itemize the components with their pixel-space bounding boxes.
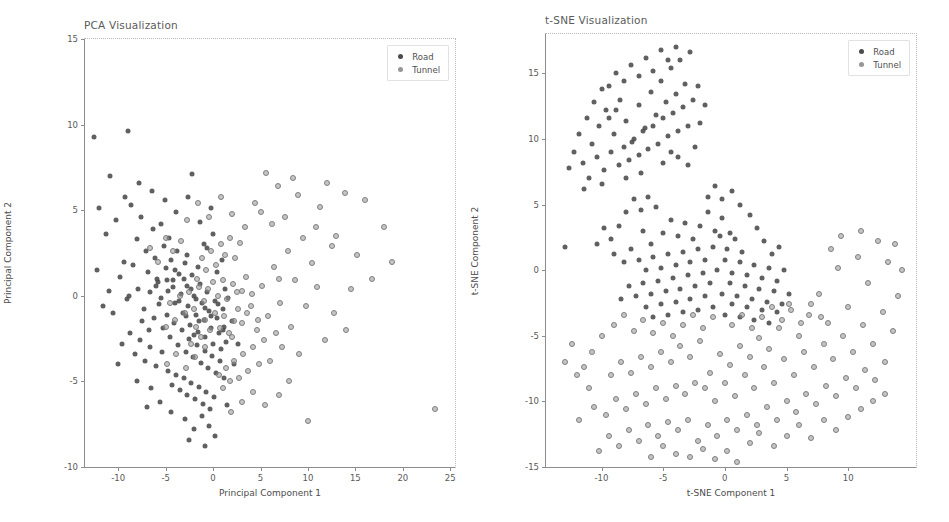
tsne-point-tunnel [677, 343, 683, 349]
tsne-point-tunnel [638, 354, 644, 360]
pca-point-road [181, 375, 186, 380]
tsne-point-tunnel [645, 422, 651, 428]
tsne-point-road [764, 299, 769, 304]
pca-point-road [158, 221, 163, 226]
pca-point-road [183, 350, 188, 355]
pca-yticklabel: 15 [67, 34, 78, 44]
tsne-point-tunnel [712, 456, 718, 462]
tsne-point-road [698, 223, 703, 228]
pca-point-road [103, 232, 108, 237]
tsne-point-road [648, 291, 653, 296]
tsne-point-road [621, 144, 626, 149]
pca-point-tunnel [228, 409, 234, 415]
pca-xtick [355, 467, 356, 471]
pca-point-road [200, 401, 205, 406]
tsne-point-tunnel [618, 359, 624, 365]
pca-point-road [164, 278, 169, 283]
pca-point-tunnel [256, 361, 262, 367]
tsne-point-road [757, 286, 762, 291]
tsne-point-tunnel [606, 433, 612, 439]
pca-point-tunnel [389, 259, 395, 265]
tsne-point-tunnel [724, 448, 730, 454]
tsne-point-tunnel [665, 419, 671, 425]
pca-point-tunnel [210, 279, 216, 285]
pca-point-tunnel [213, 262, 219, 268]
tsne-point-road [621, 260, 626, 265]
tsne-yticklabel: -15 [525, 462, 539, 472]
tsne-point-tunnel [722, 380, 728, 386]
tsne-point-road [712, 228, 717, 233]
pca-ytick [81, 381, 85, 382]
pca-point-tunnel [198, 334, 204, 340]
tsne-point-tunnel [865, 280, 871, 286]
tsne-point-road [616, 163, 621, 168]
tsne-point-tunnel [796, 333, 802, 339]
pca-point-road [212, 394, 217, 399]
tsne-point-tunnel [803, 391, 809, 397]
tsne-point-tunnel [668, 359, 674, 365]
tsne-point-road [779, 302, 784, 307]
tsne-point-road [772, 289, 777, 294]
tsne-point-tunnel [862, 367, 868, 373]
legend-marker-tunnel [398, 67, 403, 72]
tsne-point-road [626, 283, 631, 288]
tsne-point-road [715, 268, 720, 273]
pca-point-road [196, 384, 201, 389]
tsne-point-tunnel [712, 398, 718, 404]
pca-point-tunnel [205, 286, 211, 292]
tsne-point-road [690, 97, 695, 102]
pca-point-road [186, 304, 191, 309]
tsne-point-road [683, 220, 688, 225]
pca-point-tunnel [184, 217, 190, 223]
tsne-point-road [675, 234, 680, 239]
pca-point-road [129, 203, 134, 208]
pca-point-road [133, 352, 138, 357]
legend-marker-tunnel [859, 62, 864, 67]
tsne-point-road [581, 160, 586, 165]
tsne-point-tunnel [631, 328, 637, 334]
tsne-point-tunnel [732, 393, 738, 399]
tsne-point-road [661, 231, 666, 236]
tsne-point-road [624, 118, 629, 123]
tsne-point-road [668, 150, 673, 155]
pca-plot-area: Principal Component 1 Principal Componen… [84, 38, 456, 468]
pca-point-road [91, 134, 96, 139]
tsne-point-tunnel [697, 338, 703, 344]
pca-yticklabel: 10 [67, 120, 78, 130]
tsne-ylabel: t-SNE Component 2 [471, 206, 481, 295]
tsne-point-road [619, 297, 624, 302]
tsne-point-road [673, 262, 678, 267]
tsne-point-tunnel [830, 356, 836, 362]
tsne-point-tunnel [744, 412, 750, 418]
tsne-point-road [782, 268, 787, 273]
legend-label-tunnel: Tunnel [873, 60, 901, 70]
pca-point-tunnel [195, 200, 201, 206]
pca-point-tunnel [172, 317, 178, 323]
pca-point-tunnel [333, 233, 339, 239]
tsne-point-tunnel [692, 380, 698, 386]
tsne-ytick [542, 270, 546, 271]
tsne-point-road [624, 176, 629, 181]
tsne-point-road [690, 236, 695, 241]
tsne-ytick [542, 73, 546, 74]
tsne-point-road [601, 226, 606, 231]
pca-point-tunnel [220, 385, 226, 391]
tsne-point-tunnel [734, 427, 740, 433]
tsne-xtick [787, 467, 788, 471]
pca-point-road [177, 387, 182, 392]
tsne-point-road [725, 247, 730, 252]
tsne-point-road [611, 252, 616, 257]
tsne-point-road [742, 283, 747, 288]
pca-point-road [141, 307, 146, 312]
pca-point-tunnel [331, 310, 337, 316]
tsne-point-tunnel [751, 385, 757, 391]
tsne-point-road [648, 241, 653, 246]
tsne-yticklabel: -10 [525, 396, 539, 406]
pca-point-road [147, 290, 152, 295]
pca-yticklabel: 5 [73, 205, 78, 215]
pca-point-tunnel [265, 313, 271, 319]
pca-yticklabel: -10 [64, 462, 78, 472]
tsne-point-tunnel [616, 443, 622, 449]
pca-point-road [148, 345, 153, 350]
tsne-point-road [673, 45, 678, 50]
